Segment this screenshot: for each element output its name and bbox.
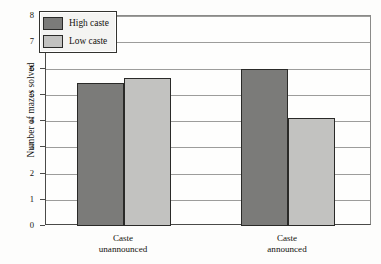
x-axis-label-group-2: Casteannounced: [217, 233, 357, 256]
gridline: [46, 69, 370, 70]
legend-label-low-caste: Low caste: [69, 36, 111, 46]
y-axis-tick-label: 0: [12, 220, 34, 230]
bar-low-caste-group-1[interactable]: [124, 78, 171, 226]
x-axis-label-group-1: Casteunannounced: [53, 233, 193, 256]
y-axis-tick-label: 5: [12, 89, 34, 99]
legend-swatch-high-caste: [43, 17, 63, 30]
x-axis-label-line1: Caste: [53, 233, 193, 244]
y-axis-tick-label: 7: [12, 36, 34, 46]
legend-label-high-caste: High caste: [69, 18, 113, 28]
y-axis-tick-label: 2: [12, 168, 34, 178]
x-axis-label-line2: announced: [217, 244, 357, 255]
y-axis-tick-label: 8: [12, 10, 34, 20]
y-axis-tick-label: 1: [12, 194, 34, 204]
legend-item-low-caste[interactable]: Low caste: [43, 32, 113, 50]
chart-figure: Number of mazes solved 012345678 Casteun…: [0, 0, 381, 264]
y-axis-tick-label: 4: [12, 115, 34, 125]
bar-high-caste-group-1[interactable]: [77, 83, 124, 226]
y-axis-title: Number of mazes solved: [26, 30, 36, 190]
bar-low-caste-group-2[interactable]: [288, 118, 335, 226]
x-axis-label-line2: unannounced: [53, 244, 193, 255]
legend-item-high-caste[interactable]: High caste: [43, 14, 113, 32]
x-axis-label-line1: Caste: [217, 233, 357, 244]
bar-high-caste-group-2[interactable]: [241, 69, 288, 227]
y-axis-tick-label: 6: [12, 63, 34, 73]
y-axis-tick: [40, 225, 45, 226]
y-axis-tick-label: 3: [12, 141, 34, 151]
legend-swatch-low-caste: [43, 35, 63, 48]
chart-legend[interactable]: High caste Low caste: [39, 11, 117, 53]
